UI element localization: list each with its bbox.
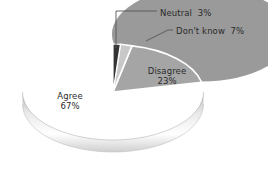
pie-label-agree: Agree 67% [44, 91, 96, 111]
pie-label-dont-know-value: 7% [231, 26, 245, 36]
pie-label-neutral-value: 3% [198, 8, 212, 18]
pie-label-agree-name: Agree [57, 91, 82, 101]
pie-label-disagree: Disagree 23% [139, 66, 195, 86]
pie-label-dont-know-name: Don't know [176, 26, 225, 36]
pie-label-neutral: Neutral 3% [160, 8, 211, 18]
pie-label-dont-know: Don't know 7% [176, 26, 244, 36]
pie-chart: Neutral 3% Don't know 7% Disagree 23% Ag… [0, 0, 268, 179]
pie-label-agree-value: 67% [44, 101, 96, 111]
pie-label-disagree-value: 23% [139, 76, 195, 86]
pie-label-disagree-name: Disagree [148, 66, 187, 76]
pie-label-neutral-name: Neutral [160, 8, 192, 18]
